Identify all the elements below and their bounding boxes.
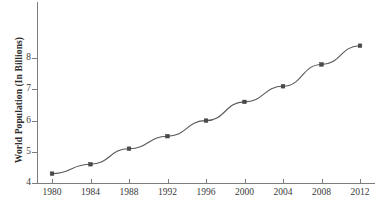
data-point-2012	[358, 44, 362, 48]
series-svg	[37, 2, 375, 184]
series-markers	[50, 44, 362, 176]
y-axis-title: World Population (In Billions)	[14, 15, 24, 185]
x-tick-label-1980: 1980	[32, 188, 72, 198]
plot-area: 45678 1980198419881992199620002004200820…	[37, 2, 375, 184]
data-point-2008	[320, 63, 324, 67]
x-tick-label-2008: 2008	[302, 188, 342, 198]
x-tick-label-2012: 2012	[340, 188, 377, 198]
x-axis-labels: 198019841988199219962000200420082012	[37, 184, 375, 204]
y-tick-label-7: 7	[17, 84, 31, 94]
data-point-1980	[50, 172, 54, 176]
x-tick-label-2000: 2000	[225, 188, 265, 198]
x-tick-label-2004: 2004	[263, 188, 303, 198]
y-tick-label-8: 8	[17, 53, 31, 63]
series-line-world-population	[52, 46, 360, 174]
data-point-1992	[166, 134, 170, 138]
y-tick-label-5: 5	[17, 147, 31, 157]
x-tick-label-1992: 1992	[148, 188, 188, 198]
x-tick-label-1984: 1984	[71, 188, 111, 198]
population-line-chart: World Population (In Billions) 45678 198…	[0, 0, 377, 205]
data-point-1984	[89, 162, 93, 166]
y-tick-label-6: 6	[17, 116, 31, 126]
data-point-2000	[243, 100, 247, 104]
data-point-2004	[281, 84, 285, 88]
data-point-1988	[127, 147, 131, 151]
x-tick-label-1988: 1988	[109, 188, 149, 198]
y-tick-label-4: 4	[17, 178, 31, 188]
x-tick-label-1996: 1996	[186, 188, 226, 198]
data-point-1996	[204, 119, 208, 123]
